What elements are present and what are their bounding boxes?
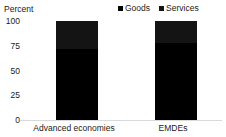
y-axis-tick-25: 25: [11, 91, 20, 100]
bar-segment-goods[interactable]: [155, 43, 197, 120]
plot-area: [24, 21, 222, 120]
chart-container: Percent Goods Services 100 75 50 25 0: [0, 0, 226, 137]
axis-baseline: [20, 120, 222, 121]
x-axis-label-emdes: EMDEs: [124, 123, 222, 133]
bar-segment-services[interactable]: [155, 21, 197, 43]
x-axis-label-advanced-economies: Advanced economies: [24, 123, 124, 133]
y-axis-ticks: 100 75 50 25 0: [0, 21, 22, 120]
chart-legend: Goods Services: [118, 2, 199, 14]
bar-stack[interactable]: [155, 21, 197, 120]
y-axis-tick-50: 50: [11, 66, 20, 75]
bar-group-advanced-economies: [56, 21, 98, 120]
legend-item-services[interactable]: Services: [159, 2, 199, 14]
y-axis-tick-75: 75: [11, 41, 20, 50]
legend-label-goods: Goods: [125, 4, 150, 13]
bar-group-emdes: [155, 21, 197, 120]
bar-segment-goods[interactable]: [56, 49, 98, 120]
square-marker-icon: [118, 6, 123, 11]
legend-label-services: Services: [166, 4, 199, 13]
bar-segment-services[interactable]: [56, 21, 98, 49]
y-axis-tick-100: 100: [6, 17, 20, 26]
legend-item-goods[interactable]: Goods: [118, 2, 150, 14]
y-axis-title: Percent: [4, 4, 33, 14]
bar-stack[interactable]: [56, 21, 98, 120]
square-marker-icon: [159, 6, 164, 11]
